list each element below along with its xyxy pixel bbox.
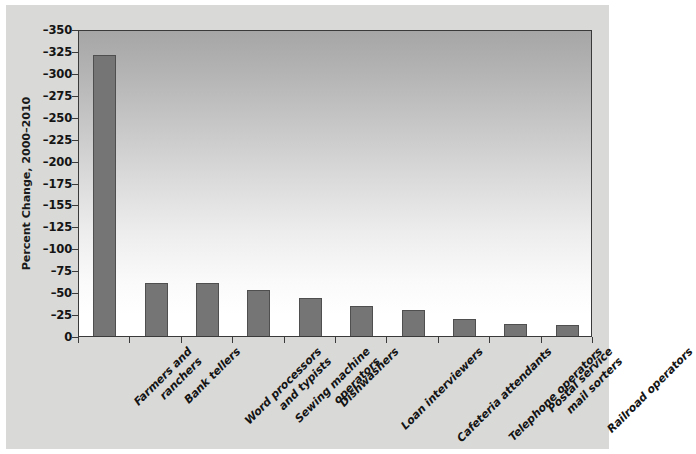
x-axis-tick-mark [284,337,285,343]
x-axis-tick-mark [181,337,182,343]
x-axis-tick-mark [335,337,336,343]
x-axis-tick-mark [489,337,490,343]
x-axis-tick-mark [438,337,439,343]
x-axis-tick-mark [592,337,593,343]
x-axis-tick-mark [129,337,130,343]
x-axis-tick-mark [541,337,542,343]
x-axis-tick-mark [78,337,79,343]
x-axis-tick-mark [386,337,387,343]
x-axis-tick-mark [232,337,233,343]
